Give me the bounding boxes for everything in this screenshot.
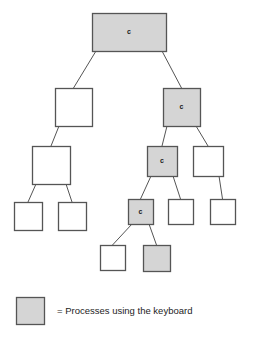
process-node[interactable] — [59, 203, 87, 231]
process-node-shaded[interactable]: c — [93, 14, 167, 52]
process-node[interactable] — [56, 89, 93, 127]
process-node-shaded[interactable] — [144, 246, 171, 272]
process-tree-diagram: cccc = Processes using the keyboard — [0, 0, 253, 341]
node-box — [33, 147, 71, 185]
node-box — [144, 246, 171, 272]
tree-edge — [162, 126, 167, 146]
process-node[interactable] — [15, 203, 43, 231]
process-node-shaded[interactable]: c — [164, 89, 201, 127]
tree-edge — [162, 51, 182, 88]
tree-edge — [51, 126, 59, 146]
legend-swatch — [17, 298, 45, 325]
tree-edge — [74, 51, 97, 88]
tree-edge — [173, 176, 181, 199]
node-box — [169, 200, 194, 225]
node-box — [211, 200, 236, 225]
process-node[interactable] — [169, 200, 194, 225]
tree-edge — [66, 184, 72, 202]
tree-edge — [28, 184, 36, 202]
process-node[interactable] — [33, 147, 71, 185]
process-node-shaded[interactable]: c — [148, 147, 178, 177]
legend-layer: = Processes using the keyboard — [17, 298, 193, 325]
tree-edge — [196, 126, 208, 146]
node-label: c — [180, 103, 184, 110]
legend-label: = Processes using the keyboard — [57, 305, 192, 316]
process-node-shaded[interactable]: c — [129, 200, 154, 225]
process-node[interactable] — [211, 200, 236, 225]
node-box — [56, 89, 93, 127]
process-node[interactable] — [101, 246, 126, 271]
node-box — [15, 203, 43, 231]
node-label: c — [160, 157, 164, 164]
tree-edge — [113, 224, 133, 245]
node-label: c — [139, 208, 143, 215]
node-box — [101, 246, 126, 271]
tree-edge — [149, 224, 157, 245]
process-node[interactable] — [194, 147, 224, 177]
node-label: c — [127, 28, 131, 35]
process-tree-canvas: cccc = Processes using the keyboard — [0, 0, 253, 341]
node-box — [59, 203, 87, 231]
node-box — [194, 147, 224, 177]
node-layer: cccc — [15, 14, 236, 272]
tree-edge — [141, 176, 152, 199]
tree-edge — [219, 176, 223, 199]
